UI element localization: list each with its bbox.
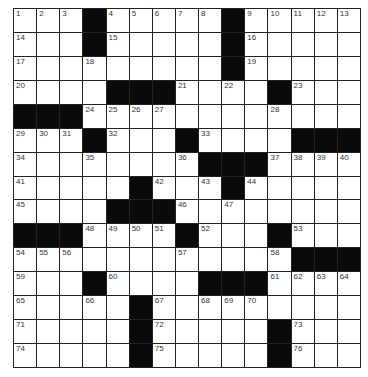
grid-cell[interactable]: 69 — [222, 296, 244, 319]
grid-cell[interactable] — [199, 57, 221, 80]
grid-cell[interactable]: 43 — [199, 177, 221, 200]
grid-cell[interactable]: 58 — [268, 248, 290, 271]
grid-cell[interactable] — [245, 105, 267, 128]
grid-cell[interactable]: 64 — [338, 272, 360, 295]
grid-cell[interactable]: 48 — [83, 224, 105, 247]
grid-cell[interactable]: 74 — [14, 344, 36, 367]
grid-cell[interactable]: 30 — [37, 129, 59, 152]
grid-cell[interactable]: 72 — [153, 320, 175, 343]
grid-cell[interactable]: 63 — [315, 272, 337, 295]
grid-cell[interactable] — [176, 33, 198, 56]
grid-cell[interactable] — [60, 153, 82, 176]
grid-cell[interactable]: 47 — [222, 200, 244, 223]
grid-cell[interactable]: 75 — [153, 344, 175, 367]
grid-cell[interactable] — [37, 200, 59, 223]
grid-cell[interactable]: 4 — [107, 9, 129, 32]
grid-cell[interactable]: 1 — [14, 9, 36, 32]
grid-cell[interactable] — [107, 57, 129, 80]
grid-cell[interactable]: 42 — [153, 177, 175, 200]
grid-cell[interactable] — [199, 200, 221, 223]
grid-cell[interactable]: 12 — [315, 9, 337, 32]
grid-cell[interactable]: 19 — [245, 57, 267, 80]
grid-cell[interactable] — [37, 296, 59, 319]
grid-cell[interactable]: 46 — [176, 200, 198, 223]
grid-cell[interactable]: 34 — [14, 153, 36, 176]
grid-cell[interactable] — [222, 105, 244, 128]
grid-cell[interactable]: 21 — [176, 81, 198, 104]
grid-cell[interactable] — [130, 57, 152, 80]
grid-cell[interactable] — [83, 200, 105, 223]
grid-cell[interactable]: 16 — [245, 33, 267, 56]
grid-cell[interactable] — [292, 57, 314, 80]
grid-cell[interactable]: 54 — [14, 248, 36, 271]
grid-cell[interactable]: 67 — [153, 296, 175, 319]
grid-cell[interactable] — [37, 33, 59, 56]
grid-cell[interactable]: 36 — [176, 153, 198, 176]
grid-cell[interactable] — [245, 320, 267, 343]
grid-cell[interactable] — [153, 57, 175, 80]
grid-cell[interactable] — [245, 224, 267, 247]
grid-cell[interactable]: 33 — [199, 129, 221, 152]
grid-cell[interactable]: 23 — [292, 81, 314, 104]
grid-cell[interactable]: 38 — [292, 153, 314, 176]
grid-cell[interactable]: 15 — [107, 33, 129, 56]
grid-cell[interactable] — [222, 320, 244, 343]
grid-cell[interactable] — [245, 129, 267, 152]
grid-cell[interactable]: 22 — [222, 81, 244, 104]
grid-cell[interactable] — [83, 248, 105, 271]
grid-cell[interactable] — [60, 57, 82, 80]
grid-cell[interactable] — [292, 105, 314, 128]
grid-cell[interactable]: 10 — [268, 9, 290, 32]
grid-cell[interactable]: 59 — [14, 272, 36, 295]
grid-cell[interactable] — [130, 272, 152, 295]
grid-cell[interactable]: 3 — [60, 9, 82, 32]
grid-cell[interactable] — [37, 344, 59, 367]
grid-cell[interactable]: 35 — [83, 153, 105, 176]
grid-cell[interactable] — [199, 105, 221, 128]
grid-cell[interactable] — [83, 177, 105, 200]
grid-cell[interactable] — [153, 272, 175, 295]
grid-cell[interactable] — [338, 320, 360, 343]
grid-cell[interactable]: 26 — [130, 105, 152, 128]
grid-cell[interactable] — [176, 177, 198, 200]
grid-cell[interactable] — [130, 248, 152, 271]
grid-cell[interactable]: 5 — [130, 9, 152, 32]
grid-cell[interactable]: 39 — [315, 153, 337, 176]
grid-cell[interactable] — [176, 272, 198, 295]
grid-cell[interactable]: 62 — [292, 272, 314, 295]
grid-cell[interactable] — [338, 296, 360, 319]
grid-cell[interactable]: 50 — [130, 224, 152, 247]
grid-cell[interactable] — [245, 81, 267, 104]
grid-cell[interactable] — [130, 129, 152, 152]
grid-cell[interactable] — [245, 200, 267, 223]
grid-cell[interactable] — [153, 33, 175, 56]
grid-cell[interactable]: 37 — [268, 153, 290, 176]
grid-cell[interactable]: 76 — [292, 344, 314, 367]
grid-cell[interactable]: 6 — [153, 9, 175, 32]
grid-cell[interactable] — [315, 296, 337, 319]
grid-cell[interactable] — [153, 129, 175, 152]
grid-cell[interactable]: 20 — [14, 81, 36, 104]
grid-cell[interactable]: 27 — [153, 105, 175, 128]
grid-cell[interactable] — [37, 153, 59, 176]
grid-cell[interactable] — [83, 81, 105, 104]
grid-cell[interactable]: 70 — [245, 296, 267, 319]
grid-cell[interactable] — [222, 344, 244, 367]
grid-cell[interactable] — [292, 177, 314, 200]
grid-cell[interactable] — [315, 57, 337, 80]
grid-cell[interactable] — [338, 81, 360, 104]
grid-cell[interactable] — [338, 224, 360, 247]
grid-cell[interactable]: 45 — [14, 200, 36, 223]
grid-cell[interactable]: 9 — [245, 9, 267, 32]
grid-cell[interactable] — [315, 105, 337, 128]
grid-cell[interactable]: 31 — [60, 129, 82, 152]
grid-cell[interactable] — [245, 248, 267, 271]
grid-cell[interactable] — [292, 200, 314, 223]
grid-cell[interactable]: 24 — [83, 105, 105, 128]
grid-cell[interactable] — [153, 153, 175, 176]
grid-cell[interactable] — [222, 129, 244, 152]
grid-cell[interactable] — [315, 320, 337, 343]
grid-cell[interactable] — [60, 81, 82, 104]
grid-cell[interactable] — [107, 320, 129, 343]
grid-cell[interactable]: 40 — [338, 153, 360, 176]
